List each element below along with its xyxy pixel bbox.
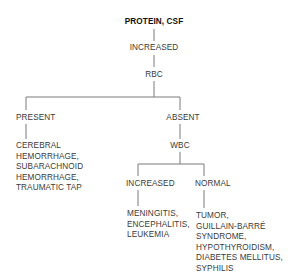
present-causes-list: CEREBRAL HEMORRHAGE, SUBARACHNOID HEMORR… — [16, 141, 83, 194]
node-increased: INCREASED — [130, 43, 179, 54]
cause-item: MENINGITIS, — [127, 209, 190, 220]
cause-item: LEUKEMIA — [127, 230, 190, 241]
node-wbc: WBC — [170, 141, 189, 152]
node-wbc-increased: INCREASED — [126, 179, 175, 190]
cause-item: SYPHILIS — [196, 264, 283, 275]
cause-item: SUBARACHNOID — [16, 162, 83, 173]
cause-item: TUMOR, — [196, 211, 283, 222]
cause-item: HYPOTHYROIDISM, — [196, 243, 283, 254]
cause-item: TRAUMATIC TAP — [16, 183, 83, 194]
cause-item: HEMORRHAGE, — [16, 173, 83, 184]
cause-item: CEREBRAL — [16, 141, 83, 152]
node-present: PRESENT — [16, 113, 55, 124]
cause-item: DIABETES MELLITUS, — [196, 253, 283, 264]
node-wbc-normal: NORMAL — [195, 179, 231, 190]
cause-item: SYNDROME, — [196, 232, 283, 243]
diagram-title: PROTEIN, CSF — [125, 17, 184, 28]
cause-item: GUILLAIN-BARRÉ — [196, 222, 283, 233]
cause-item: ENCEPHALITIS, — [127, 220, 190, 231]
wbc-increased-causes-list: MENINGITIS, ENCEPHALITIS, LEUKEMIA — [127, 209, 190, 241]
cause-item: HEMORRHAGE, — [16, 152, 83, 163]
node-rbc: RBC — [145, 70, 163, 81]
node-absent: ABSENT — [166, 113, 199, 124]
wbc-normal-causes-list: TUMOR, GUILLAIN-BARRÉ SYNDROME, HYPOTHYR… — [196, 211, 283, 275]
